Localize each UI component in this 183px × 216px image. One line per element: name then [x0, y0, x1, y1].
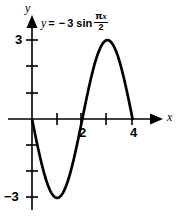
y-axis-label: y: [25, 2, 30, 14]
sine-graph-figure: y x 3 −3 2 4 y = − 3 sin πx 2: [0, 0, 183, 216]
x-tick-label-2: 2: [79, 126, 86, 139]
sine-curve-visible: [32, 40, 133, 198]
equation-annotation: y = − 3 sin πx 2: [41, 13, 108, 34]
equation-amplitude: 3: [67, 18, 73, 29]
equation-lhs: y: [41, 17, 46, 29]
x-tick-label-4: 4: [130, 126, 137, 139]
equation-function: sin: [76, 18, 92, 29]
fraction-numerator: πx: [94, 12, 108, 21]
fraction-denominator: 2: [99, 23, 104, 32]
equation-minus: −: [59, 18, 65, 29]
equation-equals: =: [48, 18, 54, 29]
x-axis-label: x: [167, 111, 172, 123]
equation-fraction: πx 2: [94, 12, 108, 33]
y-tick-label-neg3: −3: [4, 190, 19, 203]
y-tick-label-3: 3: [15, 33, 22, 46]
numerator-variable: x: [102, 11, 107, 21]
